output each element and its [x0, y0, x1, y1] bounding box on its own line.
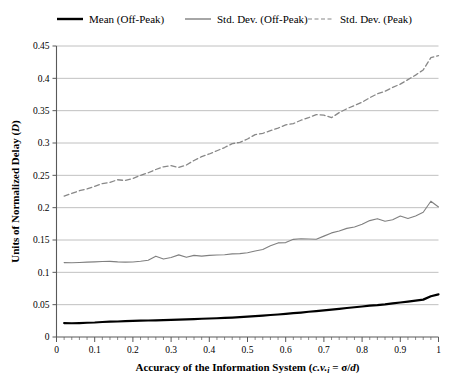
x-tick-label-2: 0.2 — [127, 345, 139, 355]
chart-svg: Mean (Off-Peak)Std. Dev. (Off-Peak)Std. … — [0, 0, 457, 389]
x-tick-label-9: 0.9 — [394, 345, 406, 355]
y-tick-label-2: 0.1 — [38, 268, 50, 278]
x-tick-label-3: 0.3 — [165, 345, 177, 355]
x-tick-label-4: 0.4 — [203, 345, 215, 355]
x-tick-label-8: 0.8 — [356, 345, 368, 355]
legend-label-1: Std. Dev. (Off-Peak) — [217, 13, 308, 26]
x-tick-label-10: 1 — [436, 345, 441, 355]
y-tick-label-4: 0.2 — [38, 203, 50, 213]
y-tick-label-6: 0.3 — [38, 138, 50, 148]
y-tick-label-7: 0.35 — [33, 106, 50, 116]
y-tick-label-8: 0.4 — [38, 74, 50, 84]
y-tick-label-0: 0 — [45, 332, 50, 342]
x-tick-label-6: 0.6 — [280, 345, 292, 355]
y-tick-label-5: 0.25 — [33, 171, 50, 181]
y-tick-label-3: 0.15 — [33, 235, 50, 245]
chart-legend: Mean (Off-Peak)Std. Dev. (Off-Peak)Std. … — [57, 13, 412, 26]
y-axis-title: Units of Normalized Delay (D) — [9, 120, 22, 263]
x-tick-label-1: 0.1 — [89, 345, 101, 355]
x-tick-label-0: 0 — [54, 345, 59, 355]
y-axis-title-text: Units of Normalized Delay (D) — [9, 120, 22, 263]
x-tick-label-7: 0.7 — [318, 345, 330, 355]
y-tick-label-1: 0.05 — [33, 300, 50, 310]
x-tick-label-5: 0.5 — [242, 345, 254, 355]
chart-figure: Mean (Off-Peak)Std. Dev. (Off-Peak)Std. … — [0, 0, 457, 389]
y-tick-label-9: 0.45 — [33, 41, 50, 51]
legend-label-0: Mean (Off-Peak) — [89, 13, 165, 26]
legend-label-2: Std. Dev. (Peak) — [340, 13, 412, 26]
